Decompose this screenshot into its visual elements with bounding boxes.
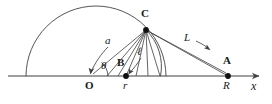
axis-label-x: x [251, 80, 256, 92]
point-label-C: C [141, 8, 149, 19]
segment-label-L: L [184, 32, 190, 43]
leader-L [196, 41, 211, 50]
x-axis [8, 73, 259, 79]
point-label-O: O [85, 80, 94, 91]
dot-C [143, 27, 149, 33]
axis-label-r: r [123, 80, 127, 91]
diagram-canvas [0, 0, 272, 104]
point-label-A: A [223, 55, 231, 66]
ray-fan-from-C [93, 30, 228, 76]
point-label-B: B [117, 57, 124, 68]
geometry-figure: O B C A a ℓ L θ r R x [0, 0, 272, 104]
angle-label-theta: θ [101, 60, 106, 71]
segment-label-a: a [105, 35, 111, 46]
segment-label-ell: ℓ [137, 46, 142, 57]
axis-label-R: R [223, 80, 230, 91]
